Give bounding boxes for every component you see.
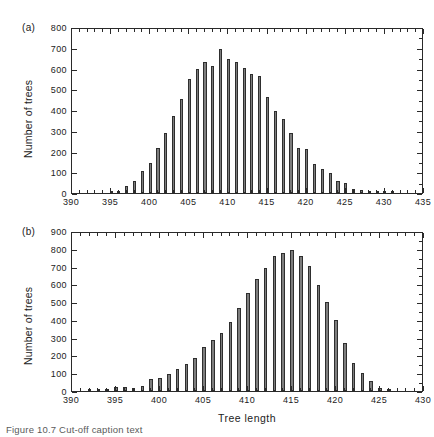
y-tick-label: 900 xyxy=(51,227,67,237)
x-tick-label: 430 xyxy=(376,197,392,207)
histogram-bar xyxy=(255,279,259,391)
y-tick-label: 600 xyxy=(51,65,67,75)
figure-caption-text: Figure 10.7 Cut-off caption text xyxy=(6,424,143,435)
histogram-bar xyxy=(156,148,159,193)
histogram-bar xyxy=(289,133,292,193)
histogram-bar xyxy=(258,76,261,193)
figure-two-histograms: (a) Number of trees 01002003004005006007… xyxy=(0,0,434,437)
panel-b-x-tick-labels: 390395400405410415420425430 xyxy=(71,395,423,409)
histogram-bar xyxy=(164,133,167,193)
x-tick-label: 390 xyxy=(63,197,79,207)
histogram-bar xyxy=(334,320,338,391)
x-tick-label: 415 xyxy=(258,197,274,207)
x-tick-label: 415 xyxy=(283,395,299,405)
histogram-bar xyxy=(185,364,189,391)
figure-caption: Figure 10.7 Cut-off caption text xyxy=(6,424,430,437)
x-tick-label: 395 xyxy=(107,395,123,405)
histogram-bar xyxy=(305,149,308,193)
histogram-bar xyxy=(264,268,268,391)
histogram-bar xyxy=(220,333,224,391)
panel-b-x-axis-title: Tree length xyxy=(71,412,423,424)
x-tick-label: 395 xyxy=(102,197,118,207)
panel-b-histogram: (b) Number of trees 01002003004005006007… xyxy=(0,210,434,410)
histogram-bar xyxy=(297,148,300,193)
panel-b-plot-area xyxy=(71,232,423,392)
y-tick-label: 500 xyxy=(51,298,67,308)
y-tick-label: 700 xyxy=(51,263,67,273)
x-tick-label: 410 xyxy=(239,395,255,405)
x-tick-label: 420 xyxy=(327,395,343,405)
panel-a-bars xyxy=(72,29,422,193)
histogram-bar xyxy=(250,74,253,193)
panel-a-x-tick-labels: 390395400405410415420425430435 xyxy=(71,197,423,211)
y-tick-label: 100 xyxy=(51,369,67,379)
histogram-bar xyxy=(237,308,241,391)
histogram-bar xyxy=(352,363,356,391)
panel-a-histogram: (a) Number of trees 01002003004005006007… xyxy=(0,8,434,206)
x-tick-label: 425 xyxy=(337,197,353,207)
histogram-bar xyxy=(229,322,233,391)
histogram-bar xyxy=(172,116,175,193)
panel-b-bars xyxy=(72,233,422,391)
histogram-bar xyxy=(188,79,191,193)
x-tick-label: 405 xyxy=(195,395,211,405)
histogram-bar xyxy=(246,293,250,391)
histogram-bar xyxy=(266,97,269,193)
y-tick-label: 600 xyxy=(51,280,67,290)
histogram-bar xyxy=(193,358,197,391)
histogram-bar xyxy=(325,302,329,391)
x-tick-label: 425 xyxy=(371,395,387,405)
histogram-bar xyxy=(211,340,215,391)
x-tick-label: 400 xyxy=(141,197,157,207)
y-tick-label: 300 xyxy=(51,127,67,137)
x-tick-label: 405 xyxy=(180,197,196,207)
histogram-bar xyxy=(299,256,303,391)
histogram-bar xyxy=(211,66,214,193)
histogram-bar xyxy=(196,69,199,193)
histogram-bar xyxy=(273,256,277,391)
histogram-bar xyxy=(290,250,294,391)
y-tick-label: 200 xyxy=(51,351,67,361)
histogram-bar xyxy=(219,49,222,193)
histogram-bar xyxy=(282,119,285,193)
histogram-bar xyxy=(203,62,206,193)
panel-a-plot-area xyxy=(71,28,423,194)
histogram-bar xyxy=(317,285,321,391)
x-tick-label: 390 xyxy=(63,395,79,405)
histogram-bar xyxy=(343,343,347,391)
x-tick-label: 430 xyxy=(415,395,431,405)
y-tick-label: 200 xyxy=(51,148,67,158)
histogram-bar xyxy=(227,59,230,193)
y-tick-label: 500 xyxy=(51,85,67,95)
histogram-bar xyxy=(308,266,312,391)
panel-b-y-tick-labels: 0100200300400500600700800900 xyxy=(31,232,67,392)
histogram-bar xyxy=(313,164,316,193)
x-tick-label: 400 xyxy=(151,395,167,405)
x-tick-label: 435 xyxy=(415,197,431,207)
y-tick-label: 300 xyxy=(51,334,67,344)
x-tick-label: 420 xyxy=(298,197,314,207)
histogram-bar xyxy=(274,111,277,193)
x-tick-label: 410 xyxy=(219,197,235,207)
y-tick-label: 800 xyxy=(51,245,67,255)
y-tick-label: 100 xyxy=(51,168,67,178)
y-tick-label: 800 xyxy=(51,23,67,33)
histogram-bar xyxy=(180,99,183,193)
y-tick-label: 400 xyxy=(51,316,67,326)
y-tick-label: 700 xyxy=(51,44,67,54)
histogram-bar xyxy=(281,253,285,391)
histogram-bar xyxy=(202,347,206,391)
histogram-bar xyxy=(235,62,238,193)
panel-a-y-tick-labels: 0100200300400500600700800 xyxy=(31,28,67,194)
histogram-bar xyxy=(243,68,246,193)
y-tick-label: 400 xyxy=(51,106,67,116)
